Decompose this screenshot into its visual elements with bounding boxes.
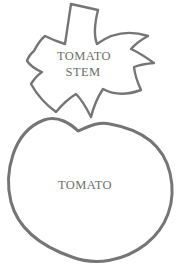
tomato-line-drawing: TOMATO STEM TOMATO [0,0,181,276]
body-label: TOMATO [58,178,112,192]
stem-label-line1: TOMATO [57,49,111,63]
stem-label-line2: STEM [66,65,101,79]
tomato-diagram: TOMATO STEM TOMATO [0,0,181,276]
